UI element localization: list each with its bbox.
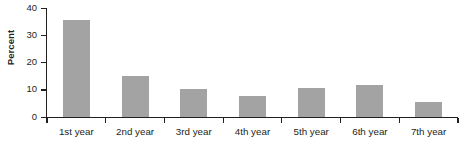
- bar: [298, 88, 325, 117]
- x-axis-category-label: 2nd year: [106, 126, 165, 138]
- bar: [122, 76, 149, 117]
- y-axis-tick-label: 0: [32, 112, 37, 122]
- y-axis-tick-mark: [41, 8, 46, 9]
- bar-chart: Percent 010203040 1st year2nd year3rd ye…: [0, 0, 462, 147]
- x-axis-tick-mark: [281, 118, 282, 123]
- x-axis-line: [46, 117, 458, 118]
- x-axis-tick-mark: [457, 118, 458, 123]
- y-axis-tick-mark: [41, 89, 46, 90]
- y-axis-tick-mark: [41, 35, 46, 36]
- y-axis-line: [46, 8, 47, 118]
- bar: [356, 85, 383, 116]
- x-axis-category-label: 5th year: [282, 126, 341, 138]
- x-axis-category-label: 4th year: [223, 126, 282, 138]
- bar: [239, 96, 266, 116]
- y-axis-title: Percent: [5, 20, 16, 76]
- x-axis-tick-mark: [46, 118, 47, 123]
- bar: [180, 89, 207, 116]
- x-axis-tick-mark: [399, 118, 400, 123]
- x-axis-tick-mark: [340, 118, 341, 123]
- y-axis-tick-label: 30: [26, 30, 37, 40]
- x-axis-category-label: 1st year: [47, 126, 106, 138]
- x-axis-category-label: 7th year: [399, 126, 458, 138]
- x-axis-category-label: 3rd year: [164, 126, 223, 138]
- y-axis-tick-mark: [41, 62, 46, 63]
- y-axis-tick-label: 10: [26, 84, 37, 94]
- y-axis-tick-label: 20: [26, 57, 37, 67]
- x-axis-tick-mark: [164, 118, 165, 123]
- y-axis-tick-mark: [41, 117, 46, 118]
- bar: [63, 20, 90, 116]
- y-axis-tick-label: 40: [26, 3, 37, 13]
- x-axis-tick-mark: [105, 118, 106, 123]
- x-axis-tick-mark: [223, 118, 224, 123]
- x-axis-category-label: 6th year: [341, 126, 400, 138]
- bar: [415, 102, 442, 117]
